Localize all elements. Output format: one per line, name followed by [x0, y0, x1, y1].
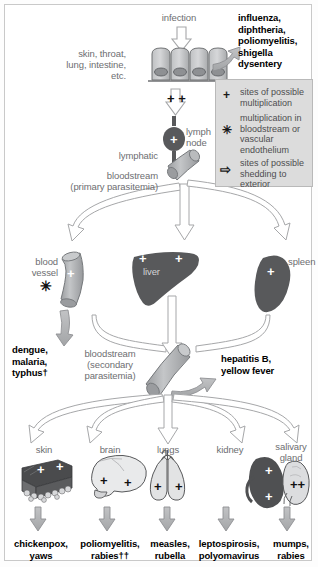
salivary-gland-label: salivary gland	[266, 441, 316, 463]
liver-mark-left: +	[139, 252, 147, 265]
salivary-gland-diseases: mumps, rabies	[266, 538, 316, 561]
epithelium-multiplication-marks: + +	[167, 92, 186, 105]
shedding-arrow-symbol-icon: ⇨	[220, 164, 231, 176]
lymphatic-label: lymphatic	[96, 150, 158, 161]
brain-diseases: poliomyelitis, rabies††	[72, 538, 148, 561]
liver-label: liver	[143, 266, 183, 277]
skin-mark-left: +	[37, 463, 45, 476]
bloodstream-primary-label: bloodstream (primary parasitemia)	[22, 170, 158, 192]
brain-mark-right: +	[124, 476, 132, 489]
brain-mark-left: +	[100, 474, 108, 487]
shed-vessel-diseases: dengue, malaria, typhus†	[12, 344, 82, 379]
infection-spread-diagram: infection skin, throat, lung, intestine,…	[0, 0, 318, 567]
skin-label: skin	[20, 444, 68, 455]
lymph-node-label: lymph node	[186, 126, 226, 148]
spleen-mark: +	[267, 265, 275, 278]
bloodstream-secondary-label: bloodstream (secondary parasitemia)	[74, 348, 146, 381]
kidney-mark-bottom: +	[265, 490, 273, 503]
lungs-mark-left: +	[154, 480, 162, 493]
shed-top-diseases: influenza, diphtheria, poliomyelitis, sh…	[238, 12, 316, 70]
shed-secondary-diseases: hepatitis B, yellow fever	[221, 353, 311, 376]
lungs-label: lungs	[144, 444, 192, 455]
lungs-mark-right: +	[175, 480, 183, 493]
blood-vessel-label: blood vessel	[6, 256, 58, 278]
spleen-label: spleen	[288, 256, 318, 267]
blood-vessel-mark: +	[67, 267, 75, 280]
plus-symbol-icon: +	[223, 89, 230, 101]
legend-text-multiplication: sites of possible multiplication	[240, 87, 310, 108]
brain-label: brain	[86, 444, 134, 455]
liver-mark-right: +	[175, 252, 183, 265]
legend-text-shedding: sites of possible shedding to exterior	[240, 158, 312, 190]
kidney-label: kidney	[205, 444, 255, 455]
lymph-node-mark: +	[170, 133, 178, 146]
salivary-gland-marks: ++	[290, 478, 305, 491]
kidney-mark-top: +	[265, 464, 273, 477]
portal-of-entry-label: skin, throat, lung, intestine, etc.	[14, 48, 126, 81]
kidney-diseases: leptospirosis, polyomavirus	[190, 538, 268, 561]
legend-text-bloodstream: multiplication in bloodstream or vascula…	[240, 113, 312, 155]
skin-mark-right: +	[56, 460, 64, 473]
legend-box: + sites of possible multiplication ✳ mul…	[215, 79, 313, 187]
blood-vessel-asterisk: ✳	[40, 279, 52, 293]
skin-diseases: chickenpox, yaws	[4, 538, 78, 561]
infection-label: infection	[141, 12, 217, 23]
